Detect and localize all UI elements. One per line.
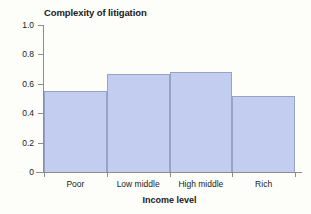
bar-chart-figure: Complexity of litigation 00.20.40.60.81.… <box>0 0 311 214</box>
bar-low-middle <box>107 74 170 172</box>
x-tick-mark <box>295 172 296 177</box>
y-tick-label: 0.2 <box>4 138 34 148</box>
x-axis-title: Income level <box>44 195 295 205</box>
x-tick-mark <box>232 172 233 177</box>
x-tick-mark <box>44 172 45 177</box>
y-tick-mark <box>38 172 43 173</box>
y-tick-mark <box>38 84 43 85</box>
y-tick-label: 0.4 <box>4 108 34 118</box>
x-tick-label-poor: Poor <box>66 179 84 189</box>
bar-rich <box>232 96 295 172</box>
x-tick-mark <box>170 172 171 177</box>
y-tick-mark <box>38 54 43 55</box>
x-tick-mark <box>107 172 108 177</box>
y-tick-mark <box>38 25 43 26</box>
bar-poor <box>44 91 107 172</box>
y-tick-mark <box>38 143 43 144</box>
plot-area <box>44 25 295 172</box>
x-tick-label-low-middle: Low middle <box>117 179 160 189</box>
x-tick-label-high-middle: High middle <box>178 179 223 189</box>
y-tick-label: 0 <box>4 167 34 177</box>
y-tick-label: 0.8 <box>4 49 34 59</box>
y-tick-label: 1.0 <box>4 20 34 30</box>
y-tick-mark <box>38 113 43 114</box>
bar-high-middle <box>170 72 233 172</box>
chart-title: Complexity of litigation <box>44 7 147 18</box>
y-tick-label: 0.6 <box>4 79 34 89</box>
x-tick-label-rich: Rich <box>255 179 272 189</box>
